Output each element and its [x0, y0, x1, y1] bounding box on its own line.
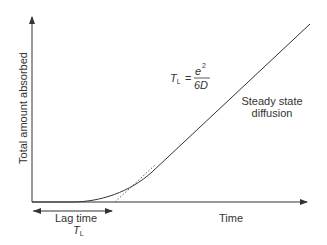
steady-state-label-line1: Steady state — [241, 95, 302, 107]
svg-text:TL: TL — [170, 72, 181, 85]
diagram-canvas: Total amount absorbed Time Lag time TL T… — [0, 0, 327, 245]
lag-time-label: Lag time — [55, 212, 97, 224]
lag-time-formula: TL = e 2 6D — [170, 62, 210, 91]
lag-arrow-left-head-icon — [33, 208, 41, 214]
y-axis-label: Total amount absorbed — [17, 52, 29, 164]
svg-text:=: = — [185, 72, 191, 84]
svg-text:6D: 6D — [194, 79, 208, 91]
lag-time-symbol: TL — [73, 224, 84, 237]
extrapolation-dotted-line — [115, 165, 155, 202]
lag-time-diagram: Total amount absorbed Time Lag time TL T… — [0, 0, 327, 245]
svg-text:e: e — [195, 65, 201, 77]
svg-text:2: 2 — [202, 62, 206, 69]
steady-state-label-line2: diffusion — [252, 107, 293, 119]
x-axis-label: Time — [219, 212, 243, 224]
